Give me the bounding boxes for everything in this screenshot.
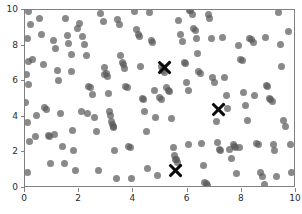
- y-axis-tick-label: 2: [12, 146, 18, 157]
- data-point: [250, 39, 257, 46]
- data-point: [83, 52, 90, 59]
- data-point: [185, 141, 192, 148]
- data-point: [68, 68, 75, 75]
- data-point: [47, 160, 54, 167]
- data-point: [152, 114, 159, 121]
- data-point: [224, 105, 231, 112]
- data-point: [124, 84, 131, 91]
- data-point: [68, 51, 75, 58]
- data-point: [168, 115, 175, 122]
- data-point: [69, 127, 76, 134]
- x-axis-tick-label: 6: [184, 193, 190, 204]
- y-axis-tick-label: 4: [12, 110, 18, 121]
- data-point: [25, 9, 32, 15]
- data-point: [194, 50, 201, 57]
- data-point: [197, 70, 204, 77]
- data-point: [192, 27, 199, 34]
- data-point: [175, 17, 182, 24]
- data-point: [136, 33, 143, 40]
- data-point: [154, 172, 161, 179]
- data-point: [204, 182, 211, 187]
- data-point: [50, 37, 57, 44]
- data-point: [236, 144, 243, 151]
- data-point: [282, 123, 289, 130]
- data-point: [233, 170, 240, 177]
- x-axis-tick: [24, 188, 25, 192]
- data-point: [166, 88, 173, 95]
- data-point: [59, 143, 66, 150]
- data-point: [174, 159, 181, 166]
- data-point: [111, 147, 118, 154]
- data-point: [261, 181, 268, 187]
- data-point: [185, 87, 192, 94]
- y-axis-tick: [21, 187, 25, 188]
- data-point: [271, 147, 278, 154]
- data-point: [55, 77, 62, 84]
- data-point: [264, 83, 271, 90]
- data-point: [24, 119, 31, 126]
- data-point: [170, 144, 177, 151]
- y-axis-tick: [21, 9, 25, 10]
- data-point: [105, 90, 112, 97]
- data-point: [93, 128, 100, 135]
- data-point: [79, 33, 86, 40]
- data-point: [146, 9, 153, 16]
- data-point: [65, 40, 72, 47]
- data-point: [277, 41, 284, 48]
- data-point: [27, 21, 34, 28]
- y-axis-tick: [21, 151, 25, 152]
- data-point: [158, 96, 165, 103]
- data-point: [61, 160, 68, 167]
- data-point: [57, 110, 64, 117]
- data-point: [127, 144, 134, 151]
- data-point: [70, 147, 77, 154]
- data-point: [278, 63, 285, 70]
- x-axis-tick-label: 2: [75, 193, 81, 204]
- scatter-chart-figure: 02468100246810: [0, 0, 302, 214]
- y-axis-tick: [21, 45, 25, 46]
- y-axis-tick-label: 8: [12, 39, 18, 50]
- data-point: [24, 71, 30, 78]
- x-axis-tick: [295, 188, 296, 192]
- data-point: [240, 89, 247, 96]
- y-axis-tick: [21, 116, 25, 117]
- data-point: [72, 167, 79, 174]
- data-point: [213, 118, 220, 125]
- y-axis-tick-label: 10: [7, 4, 18, 15]
- data-point: [104, 73, 111, 80]
- data-point: [255, 141, 262, 148]
- data-point: [131, 9, 138, 15]
- data-point: [251, 92, 258, 99]
- data-point: [33, 112, 40, 119]
- data-point: [259, 173, 266, 180]
- data-point: [182, 60, 189, 67]
- data-point: [221, 74, 228, 81]
- data-point: [54, 67, 61, 74]
- y-axis-tick-label: 6: [12, 75, 18, 86]
- data-point: [161, 69, 168, 76]
- data-point: [113, 175, 120, 182]
- data-point: [219, 34, 226, 41]
- x-axis-tick: [241, 188, 242, 192]
- data-point: [177, 31, 184, 38]
- x-axis-tick: [132, 188, 133, 192]
- data-point: [287, 141, 294, 148]
- data-point: [217, 147, 224, 154]
- data-point: [244, 117, 251, 124]
- data-point: [223, 92, 230, 99]
- data-point: [140, 96, 147, 103]
- data-point: [43, 106, 50, 113]
- data-point: [38, 31, 45, 38]
- data-point: [141, 108, 148, 115]
- data-point: [235, 42, 242, 49]
- plot-data-area: [25, 10, 294, 186]
- data-point: [91, 114, 98, 121]
- data-point: [193, 35, 200, 42]
- data-point: [81, 41, 88, 48]
- data-point: [200, 162, 207, 169]
- data-point: [24, 99, 29, 106]
- x-axis-tick-label: 8: [238, 193, 244, 204]
- data-point: [95, 167, 102, 174]
- data-point: [269, 98, 276, 105]
- data-point: [36, 15, 43, 22]
